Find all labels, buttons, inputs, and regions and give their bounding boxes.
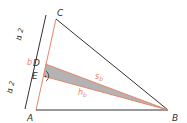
height-hb bbox=[43, 76, 168, 110]
label-half-top: b 2 bbox=[15, 27, 26, 41]
label-hb: hb bbox=[78, 88, 87, 98]
label-d: D bbox=[33, 58, 40, 68]
label-half-bottom: b 2 bbox=[6, 80, 17, 94]
svg-text:2: 2 bbox=[17, 27, 26, 34]
label-sb: sb bbox=[95, 72, 103, 82]
label-e: E bbox=[32, 71, 38, 81]
label-b: B bbox=[172, 113, 178, 123]
svg-text:2: 2 bbox=[8, 80, 17, 87]
svg-text:b: b bbox=[6, 88, 15, 95]
label-a: A bbox=[26, 113, 33, 123]
side-cb bbox=[56, 19, 168, 110]
median-sb bbox=[46, 64, 169, 110]
triangle-diagram: C A B D E b b 2 b 2 sb hb bbox=[0, 0, 187, 123]
svg-text:b: b bbox=[15, 35, 24, 42]
right-angle-dot-icon bbox=[45, 76, 47, 78]
label-b-side: b bbox=[27, 58, 32, 67]
label-c: C bbox=[57, 8, 64, 18]
